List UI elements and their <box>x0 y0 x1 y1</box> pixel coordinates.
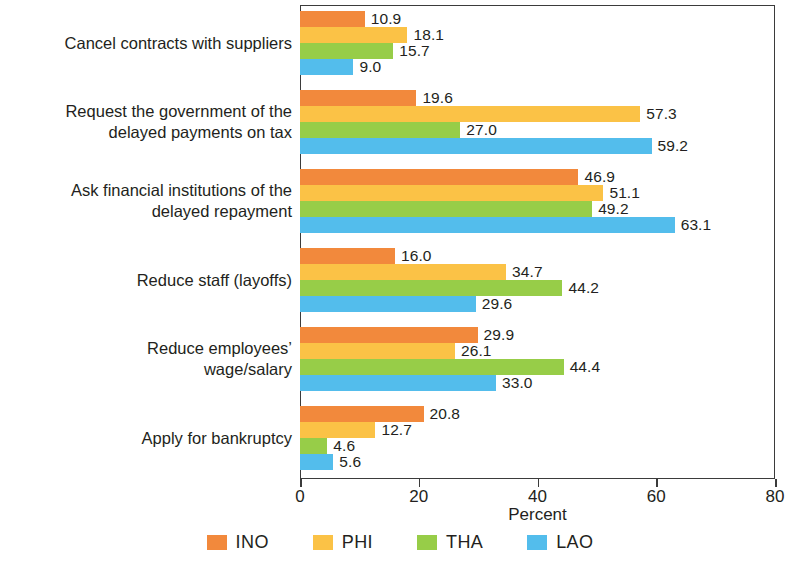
bar-tha[interactable] <box>300 122 460 138</box>
x-axis-title: Percent <box>300 505 775 525</box>
bar-tha[interactable] <box>300 438 327 454</box>
category-label: Cancel contracts with suppliers <box>0 33 292 54</box>
bar-chart-figure: Cancel contracts with suppliersRequest t… <box>0 0 800 565</box>
bar-value-label: 29.9 <box>484 327 515 343</box>
bar-phi[interactable] <box>300 27 407 43</box>
bar-tha[interactable] <box>300 201 592 217</box>
bar-row: 44.4 <box>300 359 775 375</box>
bar-lao[interactable] <box>300 375 496 391</box>
legend-item-ino[interactable]: INO <box>207 532 269 553</box>
bar-tha[interactable] <box>300 359 564 375</box>
bar-phi[interactable] <box>300 185 603 201</box>
bar-row: 29.9 <box>300 327 775 343</box>
bar-value-label: 26.1 <box>461 343 492 359</box>
bar-ino[interactable] <box>300 406 424 422</box>
x-axis-tick-label: 40 <box>528 488 547 505</box>
bar-ino[interactable] <box>300 90 416 106</box>
bar-value-label: 46.9 <box>584 169 615 185</box>
x-axis-tick <box>656 479 658 487</box>
bar-lao[interactable] <box>300 296 476 312</box>
bar-group: 46.951.149.263.1 <box>300 169 775 233</box>
legend-swatch-icon <box>313 535 333 550</box>
bar-group: 16.034.744.229.6 <box>300 248 775 312</box>
bar-value-label: 12.7 <box>381 422 412 438</box>
bar-row: 49.2 <box>300 201 775 217</box>
legend-item-phi[interactable]: PHI <box>313 532 373 553</box>
bar-value-label: 27.0 <box>466 122 497 138</box>
bar-row: 15.7 <box>300 43 775 59</box>
bar-value-label: 57.3 <box>646 106 677 122</box>
bar-row: 18.1 <box>300 27 775 43</box>
bar-lao[interactable] <box>300 138 652 154</box>
bar-value-label: 44.2 <box>568 280 599 296</box>
bar-row: 51.1 <box>300 185 775 201</box>
bar-phi[interactable] <box>300 422 375 438</box>
bar-value-label: 51.1 <box>609 185 640 201</box>
bar-value-label: 59.2 <box>658 138 689 154</box>
bar-row: 9.0 <box>300 59 775 75</box>
bar-lao[interactable] <box>300 59 353 75</box>
category-label: Request the government of the delayed pa… <box>0 101 292 143</box>
bar-row: 44.2 <box>300 280 775 296</box>
legend-swatch-icon <box>417 535 437 550</box>
bar-row: 19.6 <box>300 90 775 106</box>
bar-phi[interactable] <box>300 106 640 122</box>
bar-row: 34.7 <box>300 264 775 280</box>
legend-label: PHI <box>342 532 373 553</box>
bar-row: 46.9 <box>300 169 775 185</box>
bar-row: 12.7 <box>300 422 775 438</box>
category-axis-labels: Cancel contracts with suppliersRequest t… <box>0 5 292 479</box>
bar-value-label: 19.6 <box>422 90 453 106</box>
bar-row: 4.6 <box>300 438 775 454</box>
bar-tha[interactable] <box>300 280 562 296</box>
x-axis-tick-label: 60 <box>647 488 666 505</box>
bar-group: 29.926.144.433.0 <box>300 327 775 391</box>
x-axis-tick-label: 0 <box>295 488 304 505</box>
bar-row: 26.1 <box>300 343 775 359</box>
bar-group: 20.812.74.65.6 <box>300 406 775 470</box>
legend-label: INO <box>236 532 269 553</box>
category-label: Apply for bankruptcy <box>0 428 292 449</box>
bar-row: 16.0 <box>300 248 775 264</box>
bar-value-label: 15.7 <box>399 43 430 59</box>
bar-value-label: 33.0 <box>502 375 533 391</box>
bar-row: 10.9 <box>300 11 775 27</box>
x-axis-tick-label: 20 <box>409 488 428 505</box>
x-axis-tick <box>419 479 421 487</box>
legend: INOPHITHALAO <box>0 532 800 553</box>
category-label: Reduce staff (layoffs) <box>0 270 292 291</box>
bar-ino[interactable] <box>300 11 365 27</box>
legend-label: THA <box>446 532 483 553</box>
bar-phi[interactable] <box>300 264 506 280</box>
bar-ino[interactable] <box>300 327 478 343</box>
bar-lao[interactable] <box>300 454 333 470</box>
bar-ino[interactable] <box>300 248 395 264</box>
legend-swatch-icon <box>207 535 227 550</box>
legend-item-lao[interactable]: LAO <box>527 532 593 553</box>
bar-value-label: 5.6 <box>339 454 361 470</box>
bar-row: 33.0 <box>300 375 775 391</box>
bars-layer: 10.918.115.79.019.657.327.059.246.951.14… <box>300 5 775 479</box>
bar-value-label: 4.6 <box>333 438 355 454</box>
x-axis-tick <box>300 479 302 487</box>
bar-group: 19.657.327.059.2 <box>300 90 775 154</box>
bar-phi[interactable] <box>300 343 455 359</box>
bar-row: 29.6 <box>300 296 775 312</box>
legend-swatch-icon <box>527 535 547 550</box>
bar-value-label: 29.6 <box>482 296 513 312</box>
bar-value-label: 44.4 <box>570 359 601 375</box>
bar-value-label: 10.9 <box>371 11 402 27</box>
category-label: Reduce employees’ wage/salary <box>0 338 292 380</box>
bar-value-label: 49.2 <box>598 201 629 217</box>
category-label: Ask financial institutions of the delaye… <box>0 180 292 222</box>
bar-ino[interactable] <box>300 169 578 185</box>
bar-tha[interactable] <box>300 43 393 59</box>
legend-item-tha[interactable]: THA <box>417 532 483 553</box>
bar-value-label: 63.1 <box>681 217 712 233</box>
bar-row: 20.8 <box>300 406 775 422</box>
bar-value-label: 9.0 <box>359 59 381 75</box>
bar-row: 63.1 <box>300 217 775 233</box>
bar-group: 10.918.115.79.0 <box>300 11 775 75</box>
bar-lao[interactable] <box>300 217 675 233</box>
bar-row: 57.3 <box>300 106 775 122</box>
